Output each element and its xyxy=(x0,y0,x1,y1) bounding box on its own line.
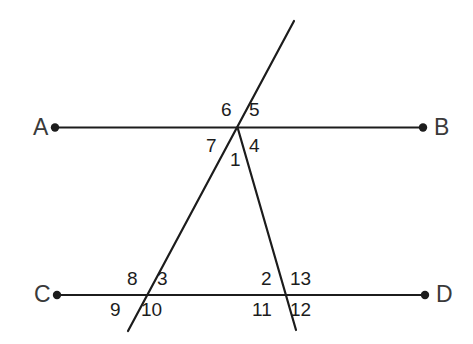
angle-label-12: 12 xyxy=(290,300,311,319)
endpoint-dot-a xyxy=(51,123,59,131)
angle-label-13: 13 xyxy=(290,269,311,288)
point-label-d: D xyxy=(436,283,453,306)
diagram-canvas: ABCD 12345678910111213 xyxy=(0,0,473,344)
angle-label-3: 3 xyxy=(157,269,168,288)
angle-label-1: 1 xyxy=(230,150,241,169)
endpoint-dot-d xyxy=(421,291,429,299)
angle-label-10: 10 xyxy=(141,300,162,319)
point-label-b: B xyxy=(434,116,449,139)
endpoint-dot-b xyxy=(419,123,427,131)
angle-label-7: 7 xyxy=(206,136,217,155)
angle-label-9: 9 xyxy=(110,300,121,319)
point-label-c: C xyxy=(34,283,51,306)
angle-label-2: 2 xyxy=(261,269,272,288)
geometry-figure xyxy=(0,0,473,344)
endpoint-dot-c xyxy=(53,291,61,299)
angle-label-11: 11 xyxy=(252,300,272,319)
angle-label-4: 4 xyxy=(249,136,260,155)
angle-label-6: 6 xyxy=(221,100,232,119)
lines-group xyxy=(55,21,425,331)
angle-label-8: 8 xyxy=(127,269,138,288)
angle-label-5: 5 xyxy=(249,100,260,119)
point-label-a: A xyxy=(33,116,48,139)
